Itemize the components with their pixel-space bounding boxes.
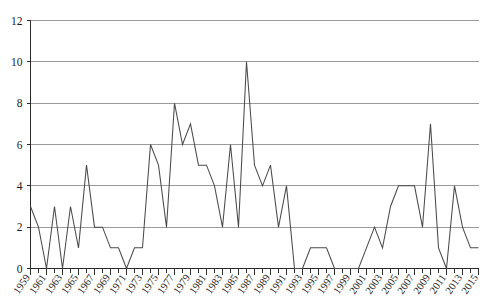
y-tick-label-6: 6 — [17, 139, 23, 151]
y-tick-label-4: 4 — [17, 180, 23, 192]
chart-container: 024681012 195919611963196519671969197119… — [0, 0, 490, 308]
y-tick-label-2: 2 — [17, 221, 23, 233]
y-tick-label-8: 8 — [17, 97, 23, 109]
chart-background — [0, 0, 490, 308]
y-tick-label-10: 10 — [11, 56, 23, 68]
line-chart: 024681012 195919611963196519671969197119… — [0, 0, 490, 308]
y-tick-label-12: 12 — [11, 15, 23, 27]
